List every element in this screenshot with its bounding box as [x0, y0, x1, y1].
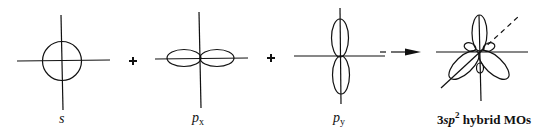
label-py: py — [333, 110, 345, 127]
sp2-hybrid-orbitals — [436, 15, 528, 101]
label-hybrid: 3sp2 hybrid MOs — [437, 110, 531, 128]
label-s: s — [59, 111, 64, 127]
arrow-icon — [380, 49, 421, 56]
py-orbital — [294, 8, 385, 104]
label-px: px — [192, 110, 204, 127]
s-orbital — [17, 15, 110, 110]
plus-sign-1 — [129, 57, 137, 65]
px-orbital — [155, 12, 248, 108]
plus-sign-2 — [267, 54, 275, 62]
